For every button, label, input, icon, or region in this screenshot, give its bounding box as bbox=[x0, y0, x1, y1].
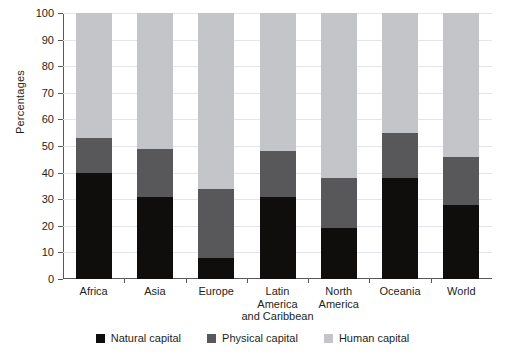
y-tick-mark bbox=[58, 173, 63, 174]
legend-label: Human capital bbox=[339, 332, 409, 344]
y-tick-mark bbox=[58, 146, 63, 147]
bar-segment-natural-capital[interactable] bbox=[443, 205, 479, 279]
bar-group[interactable] bbox=[76, 13, 112, 279]
legend-swatch-icon bbox=[324, 334, 333, 343]
x-tick-mark bbox=[247, 279, 248, 283]
bar-segment-human-capital[interactable] bbox=[321, 13, 357, 178]
y-tick-mark bbox=[58, 93, 63, 94]
bar-segment-natural-capital[interactable] bbox=[198, 258, 234, 279]
y-tick-mark bbox=[58, 279, 63, 280]
bar-segment-physical-capital[interactable] bbox=[198, 189, 234, 258]
bar-segment-natural-capital[interactable] bbox=[321, 228, 357, 279]
x-tick-mark bbox=[186, 279, 187, 283]
y-tick-mark bbox=[58, 252, 63, 253]
x-tick-label: World bbox=[406, 285, 505, 298]
bar-group[interactable] bbox=[443, 13, 479, 279]
bar-group[interactable] bbox=[260, 13, 296, 279]
bar-segment-physical-capital[interactable] bbox=[137, 149, 173, 197]
y-tick-label: 80 bbox=[14, 60, 54, 72]
y-tick-label: 10 bbox=[14, 246, 54, 258]
bar-segment-human-capital[interactable] bbox=[137, 13, 173, 149]
plot-area: 0102030405060708090100 bbox=[63, 13, 492, 279]
y-tick-label: 20 bbox=[14, 220, 54, 232]
legend-item[interactable]: Physical capital bbox=[207, 332, 298, 344]
bar-segment-human-capital[interactable] bbox=[198, 13, 234, 189]
y-axis-title: Percentages bbox=[14, 22, 26, 182]
legend-label: Physical capital bbox=[222, 332, 298, 344]
x-tick-label-line: America bbox=[284, 298, 394, 311]
y-tick-mark bbox=[58, 40, 63, 41]
y-tick-label: 40 bbox=[14, 167, 54, 179]
bar-segment-natural-capital[interactable] bbox=[382, 178, 418, 279]
legend-item[interactable]: Natural capital bbox=[96, 332, 181, 344]
bar-segment-physical-capital[interactable] bbox=[260, 151, 296, 196]
gridline bbox=[63, 279, 492, 280]
chart-legend: Natural capitalPhysical capitalHuman cap… bbox=[0, 332, 505, 344]
y-tick-mark bbox=[58, 226, 63, 227]
bar-segment-human-capital[interactable] bbox=[76, 13, 112, 138]
bar-segment-human-capital[interactable] bbox=[443, 13, 479, 157]
x-tick-mark bbox=[431, 279, 432, 283]
bar-segment-physical-capital[interactable] bbox=[382, 133, 418, 178]
y-tick-mark bbox=[58, 13, 63, 14]
legend-swatch-icon bbox=[207, 334, 216, 343]
y-tick-label: 60 bbox=[14, 113, 54, 125]
bar-segment-human-capital[interactable] bbox=[382, 13, 418, 133]
bar-segment-physical-capital[interactable] bbox=[76, 138, 112, 173]
bar-segment-physical-capital[interactable] bbox=[443, 157, 479, 205]
y-tick-label: 0 bbox=[14, 273, 54, 285]
bar-group[interactable] bbox=[137, 13, 173, 279]
y-tick-label: 70 bbox=[14, 87, 54, 99]
bar-segment-physical-capital[interactable] bbox=[321, 178, 357, 229]
legend-item[interactable]: Human capital bbox=[324, 332, 409, 344]
legend-swatch-icon bbox=[96, 334, 105, 343]
bar-group[interactable] bbox=[198, 13, 234, 279]
stacked-bar-chart: Percentages 0102030405060708090100 Afric… bbox=[0, 0, 505, 356]
bar-segment-natural-capital[interactable] bbox=[76, 173, 112, 279]
bar-group[interactable] bbox=[321, 13, 357, 279]
x-tick-label-line: World bbox=[406, 285, 505, 298]
x-tick-mark bbox=[369, 279, 370, 283]
y-tick-label: 30 bbox=[14, 193, 54, 205]
y-tick-mark bbox=[58, 119, 63, 120]
bar-segment-human-capital[interactable] bbox=[260, 13, 296, 151]
y-tick-mark bbox=[58, 199, 63, 200]
x-tick-mark bbox=[124, 279, 125, 283]
bar-segment-natural-capital[interactable] bbox=[260, 197, 296, 279]
x-tick-label-line: and Caribbean bbox=[223, 310, 333, 323]
y-tick-mark bbox=[58, 66, 63, 67]
y-tick-label: 50 bbox=[14, 140, 54, 152]
y-tick-label: 100 bbox=[14, 7, 54, 19]
bar-group[interactable] bbox=[382, 13, 418, 279]
y-tick-label: 90 bbox=[14, 34, 54, 46]
legend-label: Natural capital bbox=[111, 332, 181, 344]
bar-segment-natural-capital[interactable] bbox=[137, 197, 173, 279]
x-tick-mark bbox=[308, 279, 309, 283]
